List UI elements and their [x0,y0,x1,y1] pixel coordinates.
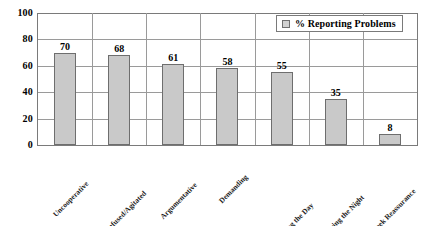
y-axis-tick-labels: 100806040200 [0,0,33,226]
bar[interactable] [379,134,401,145]
bar-value-label: 55 [277,60,287,71]
bar-slot: 55 [255,13,309,145]
y-axis-tick-80: 80 [0,34,33,44]
bar[interactable] [216,68,238,145]
bar-slot: 8 [363,13,417,145]
bar-slot: 58 [200,13,254,145]
bar-value-label: 68 [114,43,124,54]
plot-area: 7068615855358 [37,13,418,146]
x-axis-label-5: Up During the Night [314,194,366,226]
y-axis-tick-40: 40 [0,87,33,97]
bar-slot: 61 [146,13,200,145]
bar-value-label: 70 [60,41,70,52]
y-axis-tick-20: 20 [0,114,33,124]
bar-slot: 35 [309,13,363,145]
x-axis-label-2: Argumentative [159,181,199,221]
y-axis-tick-60: 60 [0,61,33,71]
bar-value-label: 58 [222,56,232,67]
y-axis-tick-0: 0 [0,140,33,150]
bar[interactable] [108,55,130,145]
chart-legend: % Reporting Problems [276,15,403,32]
x-axis-label-6: Seek Reassurance [372,188,418,226]
bar-slot: 68 [92,13,146,145]
bar-value-label: 8 [387,122,392,133]
legend-label: % Reporting Problems [295,19,396,29]
bar-slot: 70 [38,13,92,145]
bar-value-label: 35 [331,87,341,98]
bar-chart: 100806040200 7068615855358 % Reporting P… [0,0,432,226]
x-axis-label-1: Confused/Agitated [100,189,148,226]
bar[interactable] [162,64,184,145]
bar-value-label: 61 [168,52,178,63]
x-axis-label-0: Uncooperative [51,180,90,219]
x-axis-label-3: Demanding [218,173,250,205]
x-axis-label-4: Wander During the Day [255,202,315,226]
bar[interactable] [54,53,76,145]
legend-swatch-icon [282,20,290,28]
y-axis-tick-100: 100 [0,8,33,18]
bar[interactable] [271,72,293,145]
x-axis-category-labels: UncooperativeConfused/AgitatedArgumentat… [37,147,418,226]
bars-layer: 7068615855358 [38,13,417,145]
bar[interactable] [325,99,347,145]
